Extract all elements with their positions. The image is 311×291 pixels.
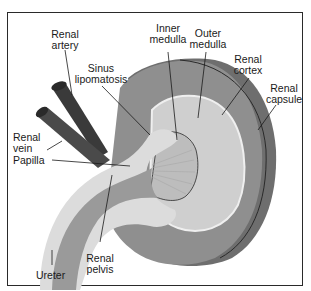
label-papilla: Papilla bbox=[13, 155, 45, 166]
label-renal-capsule: Renal capsule bbox=[262, 83, 306, 105]
label-ureter: Ureter bbox=[36, 270, 65, 281]
label-sinus-lipomatosis: Sinus lipomatosis bbox=[71, 63, 131, 85]
label-renal-artery: Renal artery bbox=[50, 29, 80, 51]
label-renal-pelvis: Renal pelvis bbox=[80, 253, 120, 275]
label-outer-medulla: Outer medulla bbox=[188, 28, 228, 50]
label-renal-cortex: Renal cortex bbox=[228, 54, 268, 76]
label-inner-medulla: Inner medulla bbox=[148, 23, 188, 45]
label-renal-vein: Renal vein bbox=[13, 132, 40, 154]
